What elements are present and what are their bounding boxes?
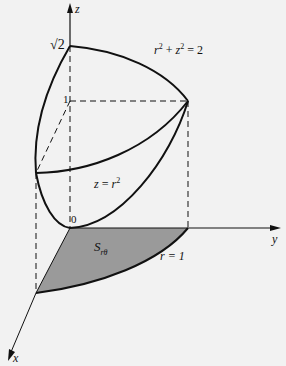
sphere-rhs: = 2 bbox=[184, 43, 203, 57]
sphere-op: + bbox=[163, 43, 176, 57]
y-axis-label: y bbox=[272, 233, 277, 245]
paraboloid-eq: = bbox=[99, 177, 112, 191]
intersection-curve bbox=[36, 101, 188, 173]
tick-sqrt2: √2 bbox=[50, 38, 65, 52]
region-subscript: rθ bbox=[101, 248, 108, 257]
z-axis-label: z bbox=[75, 3, 80, 15]
sphere-equation: r2 + z2 = 2 bbox=[154, 44, 203, 56]
region-label: Srθ bbox=[94, 240, 108, 253]
paraboloid-equation: z = r2 bbox=[94, 178, 120, 190]
paraboloid-left-curve bbox=[36, 173, 70, 228]
origin-label: 0 bbox=[71, 214, 77, 225]
x-axis bbox=[11, 293, 36, 352]
x-axis-label: x bbox=[13, 352, 18, 364]
paraboloid-exp: 2 bbox=[116, 176, 120, 185]
tick-one: 1 bbox=[63, 94, 69, 105]
z-axis-arrow-icon bbox=[67, 3, 73, 13]
boundary-label: r = 1 bbox=[160, 250, 185, 262]
sphere-left-curve bbox=[35, 46, 70, 173]
y-axis-arrow-icon bbox=[270, 225, 281, 231]
diagram-canvas bbox=[0, 0, 286, 366]
